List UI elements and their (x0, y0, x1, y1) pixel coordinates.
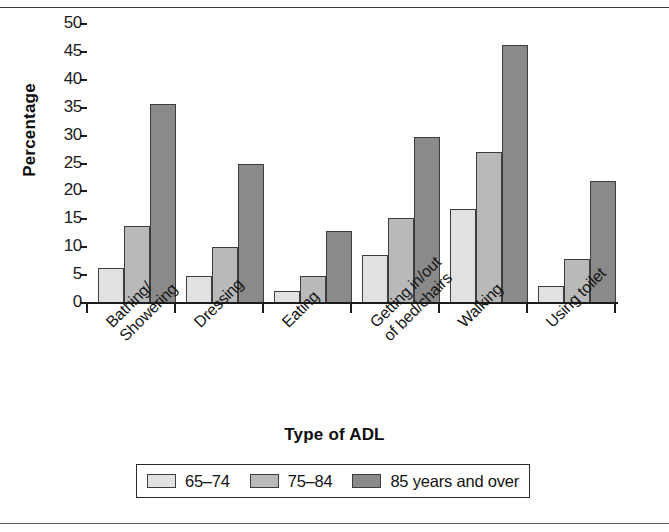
bar[interactable] (362, 255, 388, 303)
bar[interactable] (450, 209, 476, 303)
y-axis-tick-label: 25 (42, 156, 82, 170)
y-axis-tick-label: 5 (42, 267, 82, 281)
bar[interactable] (98, 268, 124, 303)
x-axis-title: Type of ADL (0, 425, 669, 445)
x-axis-tick-mark (86, 303, 88, 313)
bar[interactable] (326, 231, 352, 303)
y-axis-tick-label: 0 (42, 295, 82, 309)
y-axis-tick-label: 30 (42, 128, 82, 142)
legend-color-swatch (250, 474, 279, 488)
legend-color-swatch (352, 474, 381, 488)
x-axis-tick-mark (350, 303, 352, 313)
legend-color-swatch (147, 474, 176, 488)
plot-area (86, 24, 616, 303)
legend-label: 85 years and over (390, 472, 519, 491)
y-axis-tick-label: 20 (42, 183, 82, 197)
legend-item[interactable]: 65–74 (147, 472, 230, 491)
y-axis-tick-label: 35 (42, 100, 82, 114)
chart-page: Percentage 05101520253035404550 Type of … (0, 0, 669, 532)
y-axis-tick-label: 45 (42, 44, 82, 58)
bar[interactable] (476, 152, 502, 303)
chart-legend: 65–7475–8485 years and over (136, 464, 530, 498)
x-axis-tick-mark (614, 303, 616, 313)
bar-group (538, 24, 616, 303)
y-axis-tick-label: 15 (42, 211, 82, 225)
bar-group (274, 24, 352, 303)
y-axis-tick-label: 40 (42, 72, 82, 86)
legend-item[interactable]: 75–84 (250, 472, 333, 491)
bar-group (98, 24, 176, 303)
y-axis-tick-label: 50 (42, 16, 82, 30)
legend-label: 75–84 (288, 472, 333, 491)
x-axis-tick-mark (438, 303, 440, 313)
bar-group (450, 24, 528, 303)
bar[interactable] (502, 45, 528, 303)
bar-group (186, 24, 264, 303)
page-rule-top (0, 7, 669, 8)
x-axis-tick-mark (262, 303, 264, 313)
y-axis: 05101520253035404550 (0, 24, 82, 303)
y-axis-tick-label: 10 (42, 239, 82, 253)
x-axis-tick-mark (174, 303, 176, 313)
legend-item[interactable]: 85 years and over (352, 472, 519, 491)
legend-label: 65–74 (185, 472, 230, 491)
page-rule-bottom (0, 523, 669, 524)
x-axis-tick-mark (526, 303, 528, 313)
